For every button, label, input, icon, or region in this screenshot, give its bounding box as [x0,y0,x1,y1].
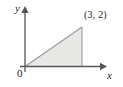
coordinate-figure: y x 0 (3, 2) [0,0,123,87]
x-axis-label: x [107,70,112,81]
y-axis-arrow-icon [21,6,28,13]
y-axis-label: y [15,3,20,14]
origin-label: 0 [17,68,23,79]
x-axis-arrow-icon [100,63,107,70]
vertex-point-label: (3, 2) [84,10,107,20]
